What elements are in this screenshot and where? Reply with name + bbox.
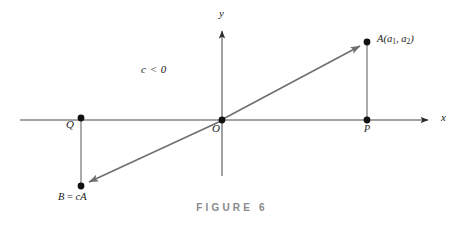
point-b-dot [78,183,85,190]
point-a-label: A(a1, a2) [377,34,414,45]
scalar-condition-label: c < 0 [141,64,167,75]
origin-label: O [212,123,220,134]
point-b-equals: = [64,191,75,202]
point-a-subscript-2: 2 [406,37,410,46]
point-b-label: B = cA [58,192,87,203]
figure-caption: FIGURE 6 [0,203,464,213]
point-a-dot [364,39,371,46]
x-axis-label: x [441,112,446,123]
point-p-label: P [364,124,370,134]
y-axis-label: y [219,8,224,19]
point-a-subscript-1: 1 [392,37,396,46]
point-a-label-mid: , a [396,33,407,44]
vector-o-to-b [89,121,221,182]
vector-o-to-a [223,46,360,119]
point-a-label-suffix: ) [410,33,414,44]
point-b-expression: cA [76,191,87,202]
point-q-dot [78,115,85,122]
point-a-label-prefix: A(a [377,33,392,44]
figure-6-container: x y O P Q A(a1, a2) B = cA c < 0 FIGURE … [0,0,464,227]
point-q-label: Q [66,119,74,130]
